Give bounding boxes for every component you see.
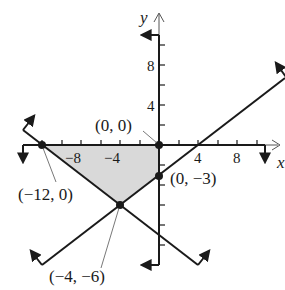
x-axis-label: x (276, 153, 285, 172)
tick-label-8x: 8 (233, 150, 241, 166)
y-axis-label: y (138, 8, 148, 27)
point-0-neg3 (155, 172, 163, 180)
coordinate-graph: y x −8 −4 4 8 8 4 (0, 0) (−12, 0) (0, −3… (0, 0, 285, 290)
line2-right-arrow-icon (276, 63, 285, 77)
point-neg4-neg6 (116, 201, 124, 209)
line2-left-arrow-icon (31, 251, 42, 265)
tick-label-4x: 4 (194, 150, 202, 166)
tick-label-neg4: −4 (104, 150, 120, 166)
label-origin: (0, 0) (95, 116, 132, 135)
point-neg12-0 (38, 141, 46, 149)
label-neg4-neg6: (−4, −6) (49, 267, 105, 286)
line1-right-arrow-icon (198, 251, 209, 265)
label-neg12-0: (−12, 0) (18, 185, 73, 204)
y-axis (142, 13, 165, 265)
line1-left-arrow-icon (23, 116, 34, 130)
tick-label-4y: 4 (147, 98, 155, 114)
tick-label-neg8: −8 (65, 150, 81, 166)
label-0-neg3: (0, −3) (170, 169, 216, 188)
tick-label-8y: 8 (147, 58, 155, 74)
